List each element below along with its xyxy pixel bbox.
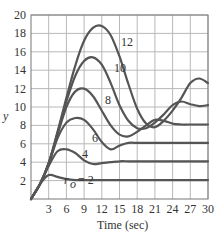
step-response-chart: 2468101214161820 36912151821242730 y Tim… <box>0 0 222 238</box>
y-tick-label: 8 <box>20 118 26 132</box>
curve-label-10: 10 <box>114 61 126 75</box>
y-tick-label: 14 <box>14 63 26 77</box>
curve-label-8: 8 <box>105 93 111 107</box>
x-tick-label: 18 <box>131 202 143 216</box>
y-tick-label: 10 <box>14 100 26 114</box>
x-axis-label: Time (sec) <box>97 218 148 232</box>
x-tick-label: 3 <box>46 202 52 216</box>
y-tick-label: 4 <box>20 155 26 169</box>
y-tick-label: 6 <box>20 137 26 151</box>
curve-label-4: 4 <box>82 147 88 161</box>
y-tick-label: 16 <box>14 45 26 59</box>
y-tick-label: 12 <box>14 82 26 96</box>
curve-label-2-eq: = 2 <box>78 173 94 187</box>
y-axis-label: y <box>2 109 9 123</box>
curve-label-2-r: r <box>64 173 69 187</box>
x-tick-label: 21 <box>149 202 161 216</box>
x-tick-label: 6 <box>63 202 69 216</box>
curve-label-2-sub: o <box>70 177 76 191</box>
y-axis-ticks: 2468101214161820 <box>14 8 26 188</box>
x-tick-label: 9 <box>81 202 87 216</box>
x-tick-label: 24 <box>167 202 179 216</box>
curve-label-2: r o = 2 <box>64 173 94 191</box>
x-axis-ticks: 36912151821242730 <box>46 202 214 216</box>
x-tick-label: 12 <box>96 202 108 216</box>
curve-label-12: 12 <box>121 35 133 49</box>
x-tick-label: 30 <box>202 202 214 216</box>
y-tick-label: 18 <box>14 26 26 40</box>
y-tick-label: 20 <box>14 8 26 22</box>
curve-label-6: 6 <box>92 131 98 145</box>
x-tick-label: 15 <box>114 202 126 216</box>
x-tick-label: 27 <box>184 202 196 216</box>
y-tick-label: 2 <box>20 174 26 188</box>
